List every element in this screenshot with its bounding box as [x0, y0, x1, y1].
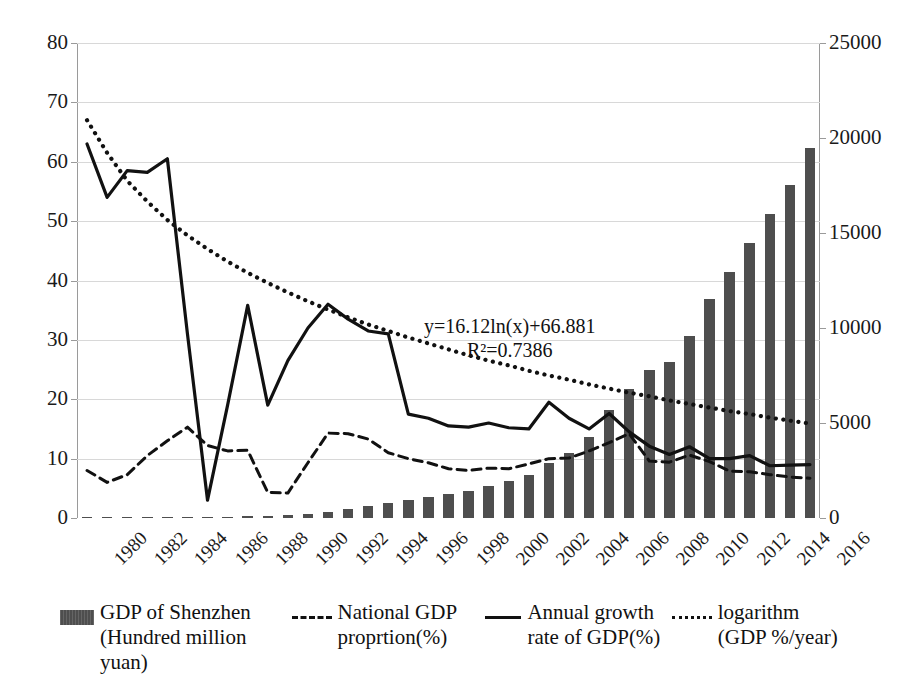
right-axis-tick-label: 10000: [829, 317, 882, 338]
x-axis-tick-label: 1990: [311, 528, 351, 568]
x-axis-tick-label: 2010: [713, 528, 753, 568]
x-axis-tick-label: 1982: [150, 528, 190, 568]
bar-icon: [60, 610, 94, 625]
x-axis-tick-label: 2008: [672, 528, 712, 568]
line-series-dashed: [87, 427, 810, 493]
right-axis-tick-mark: [820, 328, 826, 329]
legend-item-label: National GDP proprtion(%): [338, 600, 458, 650]
x-axis-tick-label: 1996: [431, 528, 471, 568]
chart-legend: GDP of Shenzhen (Hundred million yuan)Na…: [60, 600, 860, 674]
legend-item[interactable]: Annual growth rate of GDP(%): [485, 600, 671, 650]
right-axis-tick-mark: [820, 518, 826, 519]
left-axis-tick-label: 50: [47, 210, 68, 231]
x-axis-tick-label: 1988: [271, 528, 311, 568]
line-series-layer: [77, 43, 820, 518]
x-axis-tick-label: 2012: [753, 528, 793, 568]
left-axis-tick-mark: [71, 518, 77, 519]
x-axis-tick-label: 1992: [351, 528, 391, 568]
right-axis-tick-mark: [820, 138, 826, 139]
chart-container: 01020304050607080 0500010000150002000025…: [0, 0, 918, 685]
r-squared-text: R²=0.7386: [424, 338, 595, 362]
left-axis-tick-label: 0: [58, 507, 69, 528]
x-axis-tick-label: 2002: [552, 528, 592, 568]
left-axis-tick-label: 80: [47, 32, 68, 53]
left-axis-tick-label: 30: [47, 329, 68, 350]
right-axis-tick-label: 5000: [829, 412, 871, 433]
x-axis-tick-label: 1994: [391, 528, 431, 568]
equation-text: y=16.12ln(x)+66.881: [424, 314, 595, 338]
left-axis-tick-label: 40: [47, 270, 68, 291]
line-series-dotted: [87, 120, 810, 423]
right-axis-tick-label: 25000: [829, 32, 882, 53]
legend-item[interactable]: National GDP proprtion(%): [292, 600, 486, 650]
x-axis-tick-label: 1980: [110, 528, 150, 568]
x-axis-tick-label: 2014: [793, 528, 833, 568]
left-axis-tick-label: 70: [47, 91, 68, 112]
dotted-line-icon: [672, 616, 712, 619]
x-axis-tick-label: 1998: [472, 528, 512, 568]
x-axis-tick-label: 1986: [231, 528, 271, 568]
x-axis-tick-label: 2006: [632, 528, 672, 568]
legend-item-label: GDP of Shenzhen (Hundred million yuan): [100, 600, 251, 674]
right-axis-tick-mark: [820, 233, 826, 234]
left-axis-tick-label: 60: [47, 151, 68, 172]
x-axis-tick-label: 1984: [190, 528, 230, 568]
solid-line-icon: [485, 616, 521, 619]
left-axis-tick-label: 10: [47, 448, 68, 469]
legend-item-label: Annual growth rate of GDP(%): [527, 600, 660, 650]
legend-item[interactable]: GDP of Shenzhen (Hundred million yuan): [60, 600, 292, 674]
right-axis-tick-mark: [820, 43, 826, 44]
legend-item[interactable]: logarithm (GDP %/year): [672, 600, 860, 650]
right-axis-tick-label: 20000: [829, 127, 882, 148]
plot-area: 01020304050607080 0500010000150002000025…: [77, 43, 820, 518]
x-axis-tick-label: 2000: [512, 528, 552, 568]
right-axis-tick-label: 0: [829, 507, 840, 528]
x-axis-tick-label: 2016: [833, 528, 873, 568]
right-axis-tick-label: 15000: [829, 222, 882, 243]
right-axis-tick-mark: [820, 423, 826, 424]
dashed-line-icon: [292, 616, 332, 619]
legend-item-label: logarithm (GDP %/year): [718, 600, 838, 650]
left-axis-tick-label: 20: [47, 388, 68, 409]
x-axis-tick-label: 2004: [592, 528, 632, 568]
trendline-equation-annotation: y=16.12ln(x)+66.881 R²=0.7386: [424, 314, 595, 363]
